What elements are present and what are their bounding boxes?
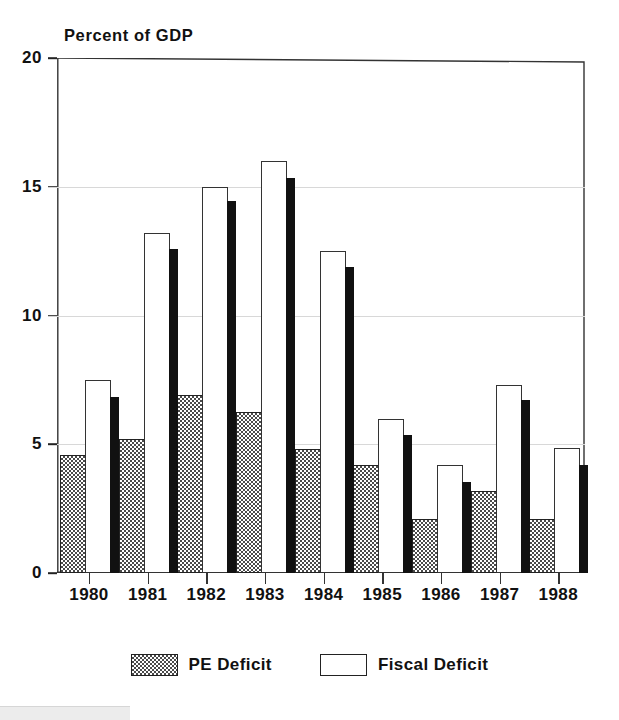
chart-title: Percent of GDP (64, 26, 193, 45)
x-axis-tick-label: 1987 (480, 585, 519, 605)
x-axis-tick-mark (558, 573, 559, 584)
bar-black-series (403, 435, 412, 573)
bar-pe-deficit (412, 519, 438, 573)
bar-pe-deficit (353, 465, 379, 573)
bar-fiscal-deficit (554, 448, 580, 573)
y-axis-tick-mark (48, 57, 57, 59)
y-axis: 05101520 (0, 58, 57, 573)
bar-pe-deficit (295, 449, 321, 573)
y-axis-tick-label: 5 (32, 434, 42, 454)
bar-black-series (110, 397, 119, 573)
legend-label: Fiscal Deficit (378, 655, 488, 675)
x-axis-tick-mark (324, 573, 325, 584)
legend-label: PE Deficit (189, 655, 272, 675)
x-axis-tick-label: 1981 (128, 585, 167, 605)
x-axis-tick-mark (441, 573, 442, 584)
bar-fiscal-deficit (202, 187, 228, 573)
bar-black-series (462, 482, 471, 573)
legend-item[interactable]: PE Deficit (131, 654, 272, 676)
y-axis-tick-label: 10 (22, 306, 42, 326)
x-axis-tick-label: 1984 (304, 585, 343, 605)
bar-black-series (286, 178, 295, 573)
bar-black-series (227, 201, 236, 573)
bar-fiscal-deficit (378, 419, 404, 574)
x-axis-tick-mark (206, 573, 207, 584)
y-axis-tick-mark (48, 315, 57, 317)
x-axis: 198019811982198319841985198619871988 (57, 585, 585, 619)
bar-fiscal-deficit (320, 251, 346, 573)
white-swatch (320, 654, 367, 676)
x-axis-tick-label: 1980 (69, 585, 108, 605)
x-axis-tick-label: 1982 (187, 585, 226, 605)
y-axis-tick-mark (48, 572, 57, 574)
bar-fiscal-deficit (496, 385, 522, 573)
hatched-swatch (131, 654, 178, 676)
y-axis-tick-label: 0 (32, 563, 42, 583)
plot-area (57, 58, 585, 573)
bars-layer (57, 58, 585, 573)
bar-fiscal-deficit (437, 465, 463, 573)
x-axis-tick-label: 1986 (421, 585, 460, 605)
y-axis-tick-label: 15 (22, 177, 42, 197)
x-axis-tick-label: 1988 (539, 585, 578, 605)
legend-item[interactable]: Fiscal Deficit (320, 654, 488, 676)
bar-pe-deficit (119, 439, 145, 573)
bar-pe-deficit (60, 455, 86, 573)
y-axis-tick-mark (48, 186, 57, 188)
x-axis-tick-label: 1983 (245, 585, 284, 605)
bar-fiscal-deficit (261, 161, 287, 573)
x-axis-tick-mark (500, 573, 501, 584)
x-axis-tick-mark (148, 573, 149, 584)
bar-black-series (169, 249, 178, 573)
bar-pe-deficit (236, 412, 262, 573)
bar-fiscal-deficit (144, 233, 170, 573)
bar-pe-deficit (471, 491, 497, 573)
chart-legend: PE DeficitFiscal Deficit (0, 645, 619, 685)
bar-black-series (579, 465, 588, 573)
x-axis-tick-mark (265, 573, 266, 584)
x-axis-tick-mark (382, 573, 383, 584)
y-axis-tick-label: 20 (22, 48, 42, 68)
bar-black-series (345, 267, 354, 573)
x-axis-tick-mark (89, 573, 90, 584)
y-axis-tick-mark (48, 443, 57, 445)
bar-pe-deficit (177, 395, 203, 573)
x-axis-tick-marks (57, 573, 585, 585)
bar-black-series (521, 400, 530, 573)
bar-fiscal-deficit (85, 380, 111, 573)
scan-edge-artifact (0, 706, 130, 720)
x-axis-tick-label: 1985 (363, 585, 402, 605)
bar-pe-deficit (529, 519, 555, 573)
